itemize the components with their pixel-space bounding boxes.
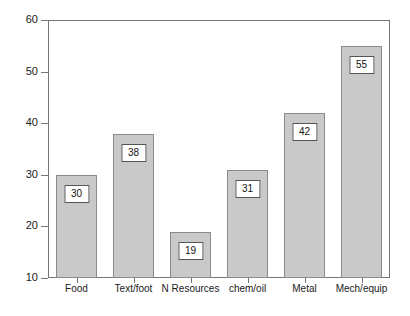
x-axis-tick-label: Metal [292, 283, 316, 295]
x-axis: FoodText/footN Resourceschem/oilMetalMec… [48, 283, 390, 303]
x-axis-tick-label: N Resources [162, 283, 220, 295]
x-axis-tick-label: Food [65, 283, 88, 295]
x-axis-tick-label: Text/foot [115, 283, 153, 295]
bar-chart: 102030405060 303819314255 FoodText/footN… [0, 0, 410, 316]
x-axis-ticks [0, 0, 410, 316]
x-axis-tick-label: chem/oil [229, 283, 266, 295]
x-axis-tick-label: Mech/equip [336, 283, 388, 295]
